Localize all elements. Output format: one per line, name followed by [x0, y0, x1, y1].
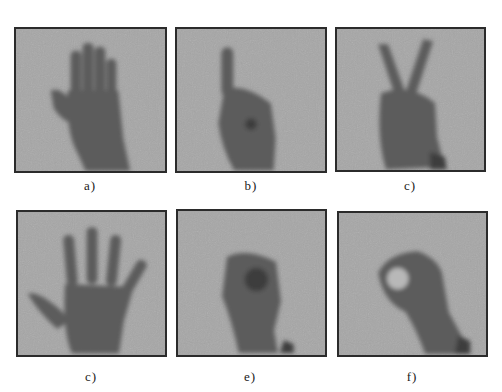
panel-b-label: b): [221, 179, 281, 193]
panel-d-open-hand-spread: [16, 210, 167, 357]
hand-index-finger-image: [177, 29, 325, 171]
hand-ok-sign-image: [339, 213, 486, 355]
panel-c-v-sign: [335, 27, 486, 172]
hand-spread-fingers-image: [18, 212, 165, 355]
panel-e-label: e): [220, 370, 280, 384]
panel-e-fist: [176, 209, 327, 357]
hand-v-sign-image: [337, 29, 484, 170]
panel-c-label: c): [380, 179, 440, 193]
panel-b-index-finger: [175, 27, 327, 173]
panel-a-open-palm: [14, 27, 167, 173]
hand-open-palm-image: [16, 29, 165, 171]
panel-f-label: f): [382, 370, 442, 384]
panel-d-label: c): [61, 370, 121, 384]
panel-f-ok-sign: [337, 211, 488, 357]
hand-fist-image: [178, 211, 325, 355]
panel-a-label: a): [60, 179, 120, 193]
